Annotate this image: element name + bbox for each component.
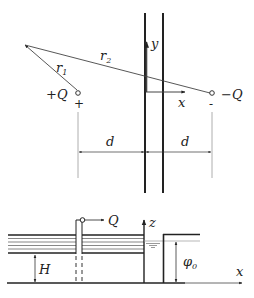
r1-label: r1 — [56, 60, 67, 77]
well-pipe-mask — [76, 222, 82, 254]
well-outlet — [80, 218, 85, 223]
r2-label: r2 — [100, 48, 111, 65]
z-axis-label: z — [148, 215, 156, 230]
top-diagram: y x r1 r2 +Q + −Q - d d — [25, 13, 243, 193]
flow-label: Q — [108, 213, 119, 228]
negative-charge-label: −Q — [221, 87, 243, 102]
y-axis-label: y — [150, 36, 159, 51]
x-axis-label: x — [178, 95, 186, 110]
thickness-label: H — [38, 262, 51, 277]
right-distance-label: d — [181, 134, 189, 149]
diagram-canvas: y x r1 r2 +Q + −Q - d d — [0, 0, 254, 298]
positive-sign: + — [74, 97, 84, 111]
x-axis-bottom-label: x — [236, 264, 244, 279]
head-label: φ0 — [183, 254, 197, 271]
negative-sign: - — [209, 97, 213, 111]
positive-charge-label: +Q — [46, 87, 68, 102]
positive-charge — [76, 91, 81, 96]
negative-charge — [210, 91, 215, 96]
bottom-diagram: Q H z φ0 x — [7, 213, 244, 283]
left-distance-label: d — [106, 134, 114, 149]
